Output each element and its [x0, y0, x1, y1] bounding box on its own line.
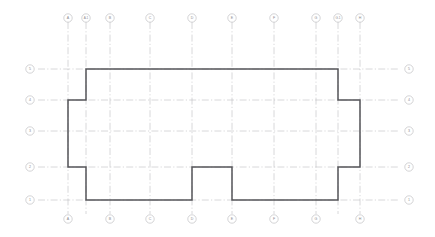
grid-bubble-left-5-label: 5 — [29, 67, 31, 71]
grid-bubble-top-E[interactable]: E — [228, 14, 236, 22]
grid-bubble-top-G.1-label: G.1 — [336, 16, 341, 20]
grid-bubble-right-4-label: 4 — [408, 98, 410, 102]
grid-bubble-top-C[interactable]: C — [146, 14, 154, 22]
grid-bubble-right-4[interactable]: 4 — [405, 96, 413, 104]
grid-bubble-bottom-G[interactable]: G — [312, 215, 320, 223]
grid-bubble-left-5[interactable]: 5 — [26, 65, 34, 73]
grid-bubble-top-G.1[interactable]: G.1 — [334, 14, 342, 22]
grid-bubble-bottom-C[interactable]: C — [146, 215, 154, 223]
horizontal-gridlines-group — [38, 69, 400, 200]
grid-bubble-bottom-D[interactable]: D — [188, 215, 196, 223]
grid-bubble-left-1-label: 1 — [29, 198, 31, 202]
grid-bubble-left-3-label: 3 — [29, 129, 31, 133]
grid-bubble-top-B[interactable]: B — [106, 14, 114, 22]
grid-bubble-top-C-label: C — [149, 16, 152, 20]
grid-bubble-bottom-H[interactable]: H — [356, 215, 364, 223]
grid-bubble-bottom-G-label: G — [315, 217, 318, 221]
grid-bubble-bottom-D-label: D — [191, 217, 194, 221]
grid-bubble-top-F[interactable]: F — [270, 14, 278, 22]
grid-bubble-top-D-label: D — [191, 16, 194, 20]
grid-bubbles-group: AAA.1BBCCDDEEFFGGG.1HH5544332211 — [26, 14, 413, 223]
grid-bubble-left-3[interactable]: 3 — [26, 127, 34, 135]
grid-bubble-right-3[interactable]: 3 — [405, 127, 413, 135]
floor-plan-canvas: AAA.1BBCCDDEEFFGGG.1HH5544332211 — [0, 0, 435, 237]
grid-bubble-left-1[interactable]: 1 — [26, 196, 34, 204]
grid-bubble-right-1-label: 1 — [408, 198, 410, 202]
grid-bubble-bottom-H-label: H — [359, 217, 362, 221]
grid-bubble-top-A[interactable]: A — [64, 14, 72, 22]
grid-bubble-left-2-label: 2 — [29, 165, 31, 169]
grid-bubble-bottom-F[interactable]: F — [270, 215, 278, 223]
grid-bubble-top-D[interactable]: D — [188, 14, 196, 22]
floor-plan-drawing: AAA.1BBCCDDEEFFGGG.1HH5544332211 — [0, 0, 435, 237]
grid-bubble-bottom-B[interactable]: B — [106, 215, 114, 223]
grid-bubble-right-2[interactable]: 2 — [405, 163, 413, 171]
grid-bubble-bottom-A[interactable]: A — [64, 215, 72, 223]
grid-bubble-right-5[interactable]: 5 — [405, 65, 413, 73]
grid-bubble-top-A.1[interactable]: A.1 — [82, 14, 90, 22]
grid-bubble-left-4-label: 4 — [29, 98, 31, 102]
grid-bubble-bottom-E[interactable]: E — [228, 215, 236, 223]
grid-bubble-left-2[interactable]: 2 — [26, 163, 34, 171]
grid-bubble-bottom-C-label: C — [149, 217, 152, 221]
vertical-gridlines-group — [68, 22, 360, 214]
grid-bubble-top-G-label: G — [315, 16, 318, 20]
grid-bubble-top-A.1-label: A.1 — [84, 16, 89, 20]
grid-bubble-top-H[interactable]: H — [356, 14, 364, 22]
grid-bubble-right-1[interactable]: 1 — [405, 196, 413, 204]
grid-bubble-right-3-label: 3 — [408, 129, 410, 133]
grid-bubble-left-4[interactable]: 4 — [26, 96, 34, 104]
grid-bubble-right-2-label: 2 — [408, 165, 410, 169]
grid-bubble-top-H-label: H — [359, 16, 362, 20]
grid-bubble-right-5-label: 5 — [408, 67, 410, 71]
grid-bubble-top-G[interactable]: G — [312, 14, 320, 22]
